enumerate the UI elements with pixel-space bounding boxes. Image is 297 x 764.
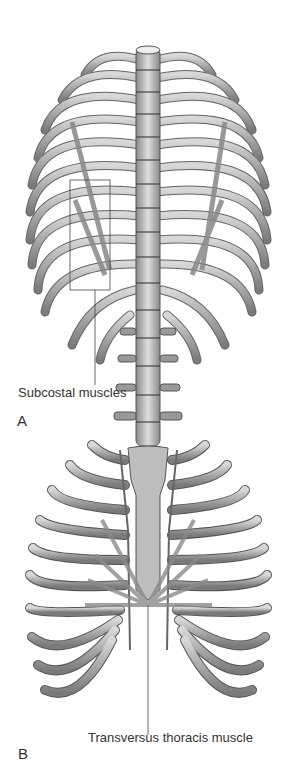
label-subcostal-muscles: Subcostal muscles (18, 385, 126, 400)
anatomy-figure (0, 0, 297, 764)
panel-letter-a: A (17, 412, 27, 429)
panel-b-ribcage (30, 445, 267, 735)
panel-letter-b: B (18, 745, 28, 762)
label-transversus-thoracis: Transversus thoracis muscle (88, 730, 253, 745)
